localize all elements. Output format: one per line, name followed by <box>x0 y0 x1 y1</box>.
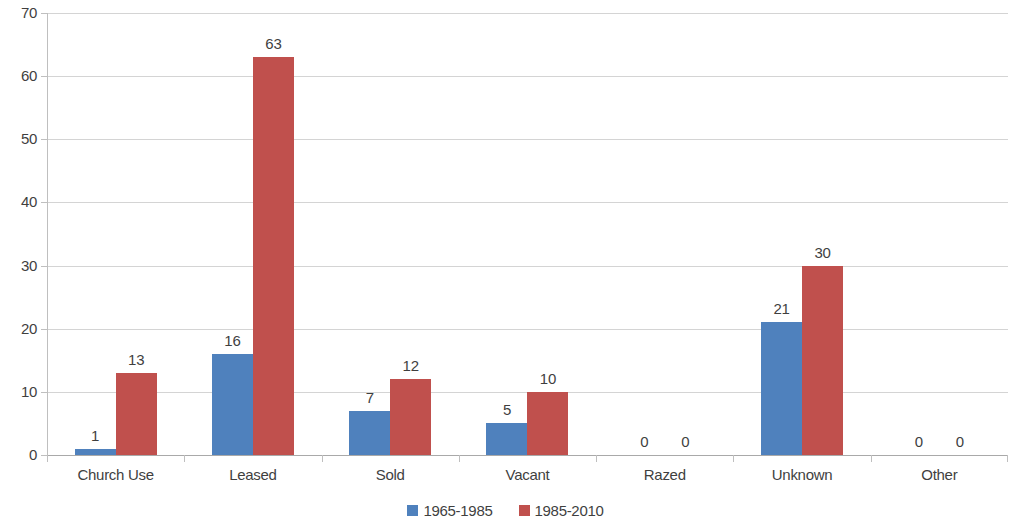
bar-slot: 0 <box>939 13 980 455</box>
bar-slot: 16 <box>212 13 253 455</box>
bar-group: 113 <box>47 13 184 455</box>
bar-value-label: 10 <box>540 371 556 386</box>
y-axis-tick-mark <box>41 202 47 203</box>
y-axis-tick-label: 50 <box>3 131 37 146</box>
x-axis-tick-mark <box>596 455 597 462</box>
x-axis-category-label: Vacant <box>459 466 596 484</box>
bar-pair: 510 <box>486 13 568 455</box>
bar-slot: 0 <box>624 13 665 455</box>
bar-group: 1663 <box>184 13 321 455</box>
chart-legend: 1965-19851985-2010 <box>0 503 1011 518</box>
bar-group: 712 <box>322 13 459 455</box>
y-axis-tick-label: 60 <box>3 68 37 83</box>
y-axis-tick-label: 40 <box>3 194 37 209</box>
bar-value-label: 0 <box>956 434 964 449</box>
bar-pair: 1663 <box>212 13 294 455</box>
x-axis-category-label: Sold <box>322 466 459 484</box>
bar-value-label: 0 <box>640 434 648 449</box>
y-axis-tick-label: 0 <box>3 447 37 462</box>
bar[interactable] <box>761 322 802 455</box>
bar-groups: 113166371251000213000 <box>47 13 1008 455</box>
bar-value-label: 12 <box>403 358 419 373</box>
bar-slot: 21 <box>761 13 802 455</box>
y-axis-tick-label: 70 <box>3 5 37 20</box>
bar-pair: 113 <box>75 13 157 455</box>
bar-value-label: 30 <box>814 245 830 260</box>
y-axis-tick-mark <box>41 266 47 267</box>
bar-value-label: 63 <box>265 36 281 51</box>
bar-group: 00 <box>596 13 733 455</box>
x-axis-category-label: Church Use <box>47 466 184 484</box>
bar-group: 00 <box>871 13 1008 455</box>
bar[interactable] <box>486 423 527 455</box>
bar[interactable] <box>212 354 253 455</box>
x-axis-labels: Church UseLeasedSoldVacantRazedUnknownOt… <box>47 466 1008 484</box>
bar-slot: 1 <box>75 13 116 455</box>
bar[interactable] <box>116 373 157 455</box>
x-axis-ticks <box>47 455 1008 462</box>
bar-group: 2130 <box>733 13 870 455</box>
bar-slot: 13 <box>116 13 157 455</box>
y-axis-tick-mark <box>41 13 47 14</box>
x-axis-tick-mark <box>871 455 872 462</box>
bar-slot: 10 <box>527 13 568 455</box>
bar-value-label: 7 <box>366 390 374 405</box>
legend-swatch-icon <box>407 505 418 516</box>
y-axis-tick-label: 10 <box>3 384 37 399</box>
bar[interactable] <box>253 57 294 455</box>
bar-value-label: 1 <box>91 428 99 443</box>
bar-value-label: 0 <box>915 434 923 449</box>
bar[interactable] <box>802 266 843 455</box>
x-axis-tick-mark <box>184 455 185 462</box>
y-axis-tick-mark <box>41 392 47 393</box>
y-axis-tick-label: 30 <box>3 258 37 273</box>
x-axis-tick-mark <box>1007 455 1008 462</box>
x-axis-category-label: Other <box>871 466 1008 484</box>
bar-slot: 63 <box>253 13 294 455</box>
bar[interactable] <box>527 392 568 455</box>
x-axis-tick-mark <box>322 455 323 462</box>
x-axis-tick-mark <box>459 455 460 462</box>
bar-slot: 5 <box>486 13 527 455</box>
bar-value-label: 16 <box>224 333 240 348</box>
bar-pair: 712 <box>349 13 431 455</box>
legend-swatch-icon <box>519 505 530 516</box>
bar-group: 510 <box>459 13 596 455</box>
legend-entry[interactable]: 1965-1985 <box>407 503 492 518</box>
bar-slot: 0 <box>665 13 706 455</box>
bar-chart: 706050403020100 113166371251000213000 Ch… <box>0 0 1011 525</box>
bar[interactable] <box>390 379 431 455</box>
legend-label: 1965-1985 <box>423 503 492 518</box>
x-axis-category-label: Leased <box>184 466 321 484</box>
y-axis-tick-label: 20 <box>3 321 37 336</box>
bar-value-label: 21 <box>773 301 789 316</box>
y-axis-tick-mark <box>41 455 47 456</box>
y-axis-tick-mark <box>41 139 47 140</box>
bar-slot: 0 <box>898 13 939 455</box>
bar-pair: 2130 <box>761 13 843 455</box>
legend-entry[interactable]: 1985-2010 <box>519 503 604 518</box>
bar[interactable] <box>349 411 390 455</box>
bar-slot: 12 <box>390 13 431 455</box>
bar-pair: 00 <box>624 13 706 455</box>
x-axis-tick-mark <box>47 455 48 462</box>
bar-value-label: 5 <box>503 402 511 417</box>
x-axis-category-label: Unknown <box>733 466 870 484</box>
bar-value-label: 13 <box>128 352 144 367</box>
bar-value-label: 0 <box>681 434 689 449</box>
bar-pair: 00 <box>898 13 980 455</box>
bar-slot: 7 <box>349 13 390 455</box>
y-axis-labels: 706050403020100 <box>0 0 37 525</box>
x-axis-tick-mark <box>733 455 734 462</box>
legend-label: 1985-2010 <box>535 503 604 518</box>
x-axis-category-label: Razed <box>596 466 733 484</box>
y-axis-tick-mark <box>41 329 47 330</box>
y-axis-tick-mark <box>41 76 47 77</box>
bar-slot: 30 <box>802 13 843 455</box>
